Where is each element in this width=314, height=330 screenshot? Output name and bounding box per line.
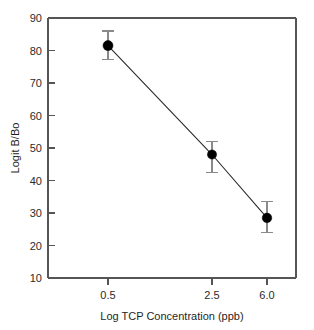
y-tick-label-70: 70 — [30, 77, 42, 89]
y-tick-label-40: 40 — [30, 175, 42, 187]
x-axis-title: Log TCP Concentration (ppb) — [100, 310, 243, 322]
y-tick-label-90: 90 — [30, 12, 42, 24]
y-tick-label-80: 80 — [30, 45, 42, 57]
y-tick-label-20: 20 — [30, 240, 42, 252]
y-tick-label-10: 10 — [30, 272, 42, 284]
data-point-2 — [262, 213, 272, 223]
y-axis-title: Logit B/Bo — [9, 123, 21, 174]
data-point-0 — [103, 41, 113, 51]
y-tick-label-30: 30 — [30, 207, 42, 219]
chart-container: 10 20 30 40 50 60 70 80 90 0.5 2.5 6.0 L… — [0, 0, 314, 330]
x-tick-label-0: 0.5 — [100, 289, 115, 301]
x-tick-label-2: 6.0 — [259, 289, 274, 301]
y-tick-label-50: 50 — [30, 142, 42, 154]
chart-plot-area: 10 20 30 40 50 60 70 80 90 0.5 2.5 6.0 L… — [0, 0, 314, 330]
data-point-1 — [207, 150, 216, 159]
x-tick-label-1: 2.5 — [204, 289, 219, 301]
y-axis-tick-labels: 10 20 30 40 50 60 70 80 90 — [30, 12, 42, 284]
y-tick-label-60: 60 — [30, 110, 42, 122]
